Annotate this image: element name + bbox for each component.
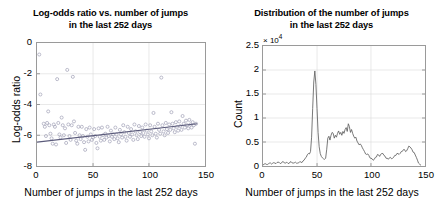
scatter-point — [170, 111, 173, 114]
scatter-point — [85, 128, 88, 131]
scatter-point — [66, 68, 69, 71]
exponent-mantissa: × 10 — [263, 36, 279, 45]
right-yaxis-exponent: × 104 — [263, 33, 282, 45]
scatter-point — [173, 131, 176, 134]
scatter-point — [171, 122, 174, 125]
left-ylabel: Log-odds ratio — [10, 76, 22, 143]
scatter-point — [174, 121, 177, 124]
scatter-point — [155, 136, 158, 139]
scatter-point — [84, 148, 87, 151]
scatter-point — [108, 140, 111, 143]
scatter-point — [68, 134, 71, 137]
scatter-point — [164, 121, 167, 124]
exponent-power: 4 — [279, 33, 283, 40]
scatter-point — [49, 132, 52, 135]
scatter-point — [42, 122, 45, 125]
scatter-point — [177, 129, 180, 132]
scatter-point — [181, 115, 184, 118]
scatter-point — [161, 124, 164, 127]
left-xtick-100: 100 — [139, 169, 161, 180]
scatter-point — [160, 76, 163, 79]
scatter-point — [188, 118, 191, 121]
scatter-point — [57, 121, 60, 124]
scatter-point — [136, 138, 139, 141]
scatter-point — [143, 135, 146, 138]
scatter-point — [131, 133, 134, 136]
scatter-point — [178, 120, 181, 123]
left-plot-area — [36, 42, 206, 167]
right-ylabel: Count — [232, 100, 244, 128]
scatter-point — [139, 131, 142, 134]
scatter-point — [56, 78, 59, 81]
scatter-point — [61, 124, 64, 127]
left-plot-title: Log-odds ratio vs. number of jumps in th… — [6, 8, 215, 31]
scatter-point — [187, 127, 190, 130]
scatter-point — [137, 125, 140, 128]
left-title-line2: in the last 252 days — [6, 20, 215, 32]
scatter-point — [76, 142, 79, 145]
scatter-point — [51, 142, 54, 145]
scatter-point — [172, 127, 175, 130]
right-ytick-2: 2 — [236, 63, 259, 74]
scatter-point — [125, 139, 128, 142]
scatter-point — [142, 131, 145, 134]
scatter-point — [47, 110, 50, 113]
scatter-point — [48, 124, 51, 127]
scatter-point — [152, 111, 155, 114]
scatter-point — [87, 140, 90, 143]
scatter-point — [44, 134, 47, 137]
scatter-point — [98, 135, 101, 138]
scatter-point — [113, 138, 116, 141]
right-xtick-50: 50 — [307, 169, 327, 180]
scatter-point — [95, 141, 98, 144]
right-xtick-100: 100 — [361, 169, 383, 180]
scatter-point — [50, 137, 53, 140]
scatter-point — [80, 125, 83, 128]
right-xtick-150: 150 — [415, 169, 437, 180]
right-gridlines — [263, 46, 425, 166]
scatter-point — [144, 123, 147, 126]
scatter-point — [83, 141, 86, 144]
scatter-point — [70, 124, 73, 127]
scatter-point — [193, 142, 196, 145]
scatter-point — [88, 126, 91, 129]
scatter-point — [180, 128, 183, 131]
scatter-point — [60, 116, 63, 119]
scatter-point — [59, 136, 62, 139]
left-title-line1: Log-odds ratio vs. number of jumps — [33, 8, 188, 18]
scatter-point — [118, 128, 121, 131]
left-xtick-150: 150 — [195, 169, 217, 180]
scatter-point — [165, 128, 168, 131]
scatter-point — [39, 93, 42, 96]
scatter-point — [58, 133, 61, 136]
scatter-point — [119, 133, 122, 136]
scatter-point — [96, 147, 99, 150]
scatter-point — [71, 75, 74, 78]
right-ytick-15: 1.5 — [236, 87, 259, 98]
scatter-point — [154, 132, 157, 135]
right-xtick-0: 0 — [252, 169, 272, 180]
scatter-point — [168, 123, 171, 126]
left-gridlines — [37, 43, 205, 166]
right-plot-area — [262, 45, 426, 167]
panel-log-odds-scatter: Log-odds ratio vs. number of jumps in th… — [0, 0, 221, 217]
scatter-point — [109, 129, 112, 132]
left-scatter-points — [38, 53, 198, 151]
scatter-point — [184, 119, 187, 122]
scatter-point — [43, 125, 46, 128]
scatter-point — [140, 134, 143, 137]
scatter-point — [116, 137, 119, 140]
right-histogram-svg — [263, 46, 425, 166]
right-ytick-05: 0.5 — [236, 136, 259, 147]
scatter-point — [156, 122, 159, 125]
scatter-point — [132, 138, 135, 141]
left-ytick-0: 0 — [14, 36, 32, 47]
left-xlabel: Number of jumps in the last 252 days — [6, 186, 216, 198]
scatter-point — [100, 126, 103, 129]
figure-canvas: Log-odds ratio vs. number of jumps in th… — [0, 0, 442, 217]
scatter-point — [191, 121, 194, 124]
scatter-point — [99, 139, 102, 142]
scatter-point — [117, 141, 120, 144]
scatter-point — [162, 130, 165, 133]
scatter-point — [67, 123, 70, 126]
